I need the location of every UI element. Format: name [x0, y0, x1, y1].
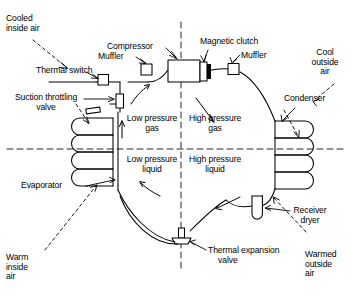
warm-inside-air-line2: inside	[6, 262, 28, 272]
cool-outside-air-line3: air	[320, 66, 329, 76]
thermal-switch-body	[98, 75, 109, 86]
label-high-pressure-liquid: High pressureliquid	[186, 155, 244, 174]
muffler-suction-body	[141, 64, 152, 75]
diagram-linework	[0, 0, 351, 296]
flow-arrows	[119, 85, 240, 210]
label-suction-throttling-valve: Suction throttlingvalve	[8, 93, 84, 112]
label-low-pressure-liquid: Low pressureliquid	[124, 155, 180, 174]
warmed-outside-air-line2: outside	[305, 259, 332, 269]
receiver-dryer-body	[252, 196, 262, 219]
label-muffler-discharge: Muffler	[241, 51, 266, 61]
warm-inside-air-line1: Warm	[6, 252, 28, 262]
suction-throttling-valve-body	[116, 94, 124, 108]
magnetic-clutch-body	[200, 62, 211, 81]
warmed-outside-air-line1: Warmed	[305, 249, 337, 259]
label-warmed-outside-air: Warmedoutsideair	[305, 250, 337, 279]
warm-inside-air-line3: air	[6, 271, 15, 281]
label-cool-outside-air: Cooloutsideair	[303, 48, 347, 77]
label-high-pressure-gas: High pressuregas	[186, 114, 244, 133]
label-thermal-switch: Thermal switch	[36, 66, 92, 76]
muffler-discharge-body	[228, 64, 239, 75]
label-low-pressure-gas: Low pressuregas	[124, 114, 180, 133]
high-pressure-liquid-line2: liquid	[205, 164, 224, 174]
label-muffler-suction: Muffler	[98, 52, 123, 62]
label-condenser: Condenser	[284, 94, 325, 104]
low-pressure-liquid-line1: Low pressure	[127, 154, 177, 164]
compressor-body	[168, 60, 200, 82]
label-thermal-expansion-valve: Thermal expansionvalve	[208, 246, 279, 265]
low-pressure-gas-line2: gas	[145, 123, 159, 133]
cooled-inside-air-line2: inside air	[6, 23, 39, 33]
suction-throttling-valve-port	[86, 107, 101, 114]
cool-outside-air-line1: Cool	[316, 47, 333, 57]
cool-outside-air-line2: outside	[311, 57, 338, 67]
label-magnetic-clutch: Magnetic clutch	[200, 37, 258, 47]
high-pressure-gas-line1: High pressure	[189, 113, 241, 123]
condenser-coil	[275, 121, 314, 189]
label-receiver-dryer: WarmedReceiverdryer	[288, 206, 332, 225]
low-pressure-gas-line1: Low pressure	[127, 113, 177, 123]
low-pressure-liquid-line2: liquid	[142, 164, 161, 174]
high-pressure-liquid-line1: High pressure	[189, 154, 241, 164]
cooled-inside-air-line1: Cooled	[6, 13, 33, 23]
label-cooled-inside-air: Cooledinside air	[6, 14, 39, 33]
refrigerant-circuit-diagram: Cooledinside air Compressor Muffler Magn…	[0, 0, 351, 296]
label-warm-inside-air: Warminsideair	[6, 253, 28, 282]
low-pressure-liquid-line	[118, 186, 178, 244]
warmed-outside-air-line3: air	[305, 268, 314, 278]
label-evaporator: Evaporator	[21, 181, 62, 191]
high-pressure-gas-line2: gas	[208, 123, 222, 133]
